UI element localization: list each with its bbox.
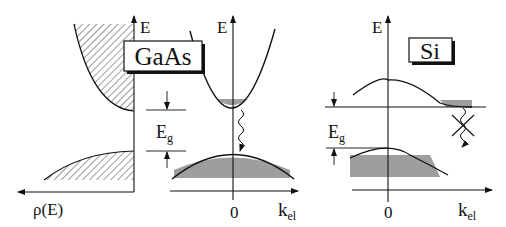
si-energy-label: E [372, 18, 382, 37]
si-valence-fill [350, 155, 440, 177]
si-gap-label: Eg [328, 122, 345, 145]
gaas-k-label: kel [278, 199, 297, 223]
gaas-gap-label: Eg [156, 122, 173, 145]
si-origin-label: 0 [384, 203, 393, 222]
dos-energy-label: E [140, 18, 150, 37]
gaas-valence-fill [174, 158, 290, 179]
si-panel: E 0 kel Eg Si [325, 16, 492, 223]
dos-rho-label: ρ(E) [33, 200, 63, 219]
si-material-label: Si [420, 38, 440, 64]
gaas-material-label: GaAs [135, 43, 192, 70]
band-structure-diagram: E ρ(E) E 0 kel Eg GaAs [0, 0, 506, 227]
si-k-label: kel [458, 199, 477, 223]
valence-dos-hatched [44, 151, 134, 180]
gaas-energy-label: E [217, 18, 227, 37]
gaas-panel: E 0 kel Eg GaAs [124, 16, 298, 223]
gaas-origin-label: 0 [230, 203, 239, 222]
gaas-photon-emission [239, 110, 244, 151]
